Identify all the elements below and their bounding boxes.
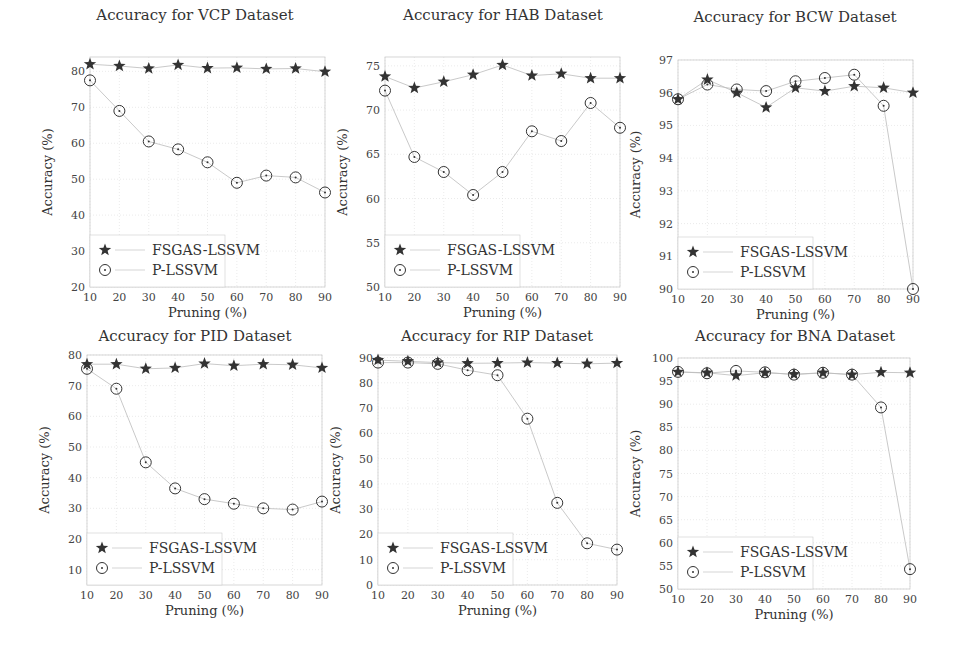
y-tick-label: 70 [659, 491, 673, 504]
marker-center [912, 288, 914, 290]
star-marker-icon [231, 61, 243, 73]
marker-center [677, 98, 679, 100]
marker-center [262, 507, 264, 509]
x-tick-label: 60 [230, 291, 244, 304]
x-tick-label: 10 [80, 589, 94, 602]
marker-center [472, 194, 474, 196]
x-tick-label: 70 [845, 593, 859, 606]
y-tick-label: 50 [71, 173, 85, 186]
marker-center [590, 102, 592, 104]
y-tick-label: 80 [359, 377, 373, 390]
star-marker-icon [526, 69, 538, 81]
x-tick-label: 50 [491, 589, 505, 602]
subplot-hab: Accuracy for HAB Dataset1020304050607080… [335, 6, 627, 320]
x-tick-label: 30 [729, 593, 743, 606]
y-tick-label: 40 [71, 209, 85, 222]
legend-label: P-LSSVM [149, 560, 215, 576]
x-tick-label: 10 [671, 593, 685, 606]
marker-center [824, 77, 826, 79]
x-tick-label: 80 [286, 589, 300, 602]
y-tick-label: 94 [659, 152, 673, 165]
x-tick-label: 50 [789, 293, 803, 306]
y-axis-label: Accuracy (%) [335, 128, 350, 217]
marker-center [851, 374, 853, 376]
x-axis-label: Pruning (%) [165, 603, 244, 618]
marker-center [735, 370, 737, 372]
x-tick-label: 60 [818, 293, 832, 306]
x-tick-label: 90 [610, 589, 624, 602]
chart-title: Accuracy for VCP Dataset [95, 6, 293, 24]
x-tick-label: 40 [759, 293, 773, 306]
legend-label: FSGAS-LSSVM [152, 242, 260, 258]
marker-center [560, 140, 562, 142]
marker-center [265, 175, 267, 177]
x-tick-label: 40 [466, 291, 480, 304]
x-tick-label: 80 [877, 293, 891, 306]
y-tick-label: 60 [659, 537, 673, 550]
marker-center [118, 110, 120, 112]
y-tick-label: 80 [71, 65, 85, 78]
x-tick-label: 20 [109, 589, 123, 602]
x-tick-label: 60 [227, 589, 241, 602]
x-tick-label: 70 [847, 293, 861, 306]
marker-center [677, 371, 679, 373]
marker-center [586, 542, 588, 544]
y-tick-label: 60 [68, 410, 82, 423]
x-tick-label: 20 [700, 593, 714, 606]
marker-center [692, 571, 694, 573]
y-tick-label: 96 [659, 87, 673, 100]
x-tick-label: 20 [401, 589, 415, 602]
y-tick-label: 55 [659, 560, 673, 573]
y-tick-label: 20 [71, 281, 85, 294]
marker-center [115, 388, 117, 390]
subplot-rip: Accuracy for RIP Dataset1020304050607080… [328, 327, 624, 618]
x-tick-label: 40 [758, 593, 772, 606]
y-tick-label: 40 [359, 478, 373, 491]
y-axis-label: Accuracy (%) [37, 426, 52, 515]
legend: FSGAS-LSSVMP-LSSVM [678, 237, 848, 289]
y-tick-label: 90 [659, 398, 673, 411]
marker-center [233, 503, 235, 505]
x-tick-label: 60 [520, 589, 534, 602]
x-axis-label: Pruning (%) [463, 305, 542, 320]
marker-center [292, 509, 294, 511]
chart-title: Accuracy for BNA Dataset [694, 327, 895, 345]
x-tick-label: 90 [903, 593, 917, 606]
legend-label: FSGAS-LSSVM [149, 540, 257, 556]
x-tick-label: 30 [139, 589, 153, 602]
chart-title: Accuracy for HAB Dataset [402, 6, 603, 24]
star-marker-icon [877, 81, 889, 93]
marker-center [556, 502, 558, 504]
y-tick-label: 95 [659, 375, 673, 388]
y-tick-label: 97 [659, 54, 673, 67]
x-axis-label: Pruning (%) [458, 603, 537, 618]
y-tick-label: 75 [366, 60, 380, 73]
y-tick-label: 50 [359, 453, 373, 466]
marker-center [104, 269, 106, 271]
marker-center [236, 182, 238, 184]
y-tick-label: 10 [359, 554, 373, 567]
marker-center [822, 372, 824, 374]
y-tick-label: 30 [359, 503, 373, 516]
series-line [90, 80, 325, 192]
star-marker-icon [491, 357, 503, 369]
x-tick-label: 60 [816, 593, 830, 606]
marker-center [204, 498, 206, 500]
chart-title: Accuracy for RIP Dataset [400, 327, 593, 345]
chart-title: Accuracy for PID Dataset [98, 327, 292, 345]
x-tick-label: 80 [584, 291, 598, 304]
star-marker-icon [496, 59, 508, 71]
figure-canvas: Accuracy for VCP Dataset1020304050607080… [0, 0, 958, 649]
x-tick-label: 20 [700, 293, 714, 306]
marker-center [706, 84, 708, 86]
marker-center [407, 362, 409, 364]
legend-label: P-LSSVM [440, 560, 506, 576]
x-tick-label: 50 [201, 291, 215, 304]
marker-center [497, 374, 499, 376]
marker-center [795, 80, 797, 82]
subplot-bcw: Accuracy for BCW Dataset1020304050607080… [628, 8, 920, 322]
marker-center [399, 269, 401, 271]
marker-center [853, 74, 855, 76]
y-tick-label: 65 [366, 148, 380, 161]
y-tick-label: 75 [659, 468, 673, 481]
